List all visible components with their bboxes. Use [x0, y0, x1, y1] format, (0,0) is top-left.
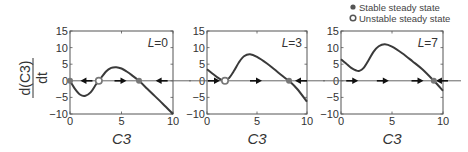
x-axis-label: C3	[112, 130, 132, 147]
unstable-marker-icon	[350, 15, 356, 21]
rate-curve	[207, 54, 307, 101]
y-tick-label: 10	[327, 42, 339, 54]
y-tick-label: −10	[186, 108, 205, 120]
y-tick-label: 15	[327, 25, 339, 37]
stable-steady-state-marker	[431, 78, 437, 84]
y-tick-label: 15	[56, 25, 68, 37]
x-tick-label: 10	[167, 115, 179, 127]
x-tick-label: 10	[437, 115, 449, 127]
stable-steady-state-marker	[67, 78, 73, 84]
y-label-denominator: dt	[34, 72, 50, 84]
x-tick-label: 0	[67, 115, 73, 127]
panel-2: 151050−5−100510L=3C3	[186, 25, 325, 147]
flow-arrow-right-icon	[121, 78, 127, 84]
flow-arrow-left-icon	[156, 78, 162, 84]
flow-arrow-left-icon	[295, 78, 301, 84]
stable-steady-state-marker	[136, 78, 142, 84]
y-tick-label: 5	[199, 58, 205, 70]
flow-arrow-right-icon	[383, 78, 389, 84]
flow-arrow-left-icon	[80, 78, 86, 84]
y-tick-label: 10	[56, 42, 68, 54]
x-tick-label: 5	[389, 115, 395, 127]
y-tick-label: −10	[49, 108, 68, 120]
stable-steady-state-marker	[286, 78, 292, 84]
legend-stable-label: Stable steady state	[359, 2, 440, 13]
chart-canvas: Stable steady state Unstable steady stat…	[0, 0, 468, 152]
stable-marker-icon	[350, 4, 355, 9]
panel-1: 151050−5−100510L=0C3	[49, 25, 191, 147]
y-tick-label: −5	[192, 91, 205, 103]
panel-label: L=7	[418, 36, 439, 50]
flow-arrow-right-icon	[352, 78, 358, 84]
legend-unstable-label: Unstable steady state	[359, 13, 450, 24]
y-axis-label: d(C3) dt	[17, 58, 50, 98]
rate-curve	[70, 67, 173, 114]
y-label-numerator: d(C3)	[17, 60, 33, 95]
y-tick-label: −10	[320, 108, 339, 120]
panel-label: L=0	[148, 36, 169, 50]
x-axis-label: C3	[247, 130, 267, 147]
flow-arrow-right-icon	[418, 78, 424, 84]
unstable-steady-state-marker	[96, 78, 102, 84]
x-tick-label: 5	[254, 115, 260, 127]
panel-3: 151050−5−100510L=7C3	[320, 25, 461, 147]
y-tick-label: 10	[193, 42, 205, 54]
flow-arrow-right-icon	[256, 78, 262, 84]
legend: Stable steady state Unstable steady stat…	[350, 2, 450, 24]
y-tick-label: −5	[326, 91, 339, 103]
y-tick-label: 5	[62, 58, 68, 70]
rate-curve	[341, 44, 443, 90]
y-tick-label: −5	[55, 91, 68, 103]
panels: 151050−5−100510L=0C3151050−5−100510L=3C3…	[49, 25, 461, 147]
x-axis-label: C3	[382, 130, 402, 147]
panel-label: L=3	[282, 36, 303, 50]
y-tick-label: 5	[333, 58, 339, 70]
x-tick-label: 0	[204, 115, 210, 127]
y-tick-label: 15	[193, 25, 205, 37]
x-tick-label: 10	[301, 115, 313, 127]
x-tick-label: 0	[338, 115, 344, 127]
unstable-steady-state-marker	[222, 78, 228, 84]
x-tick-label: 5	[118, 115, 124, 127]
